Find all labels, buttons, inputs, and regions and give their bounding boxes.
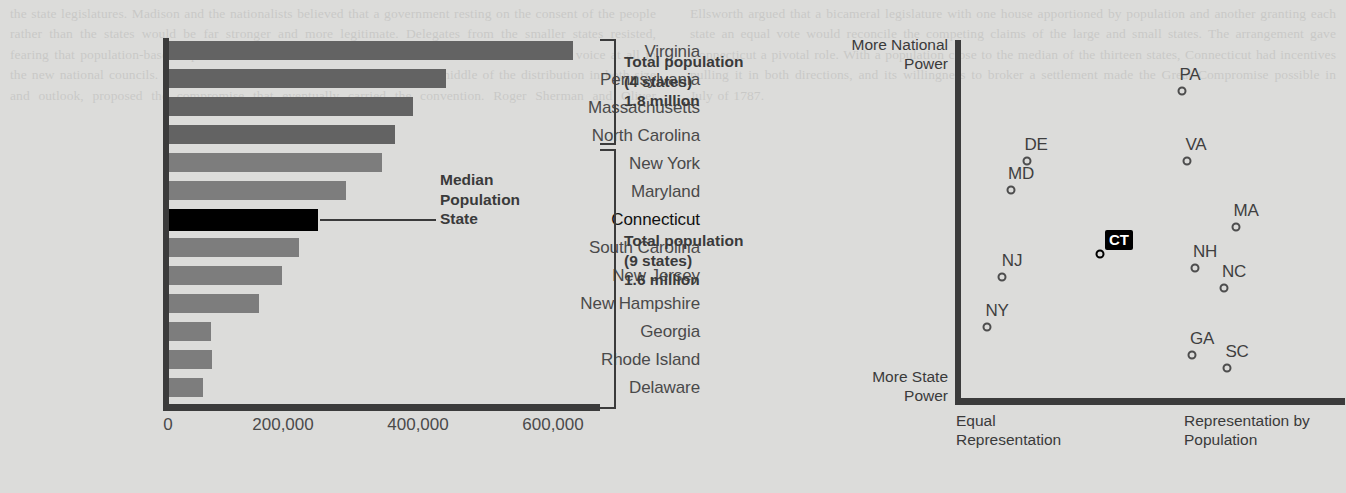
median-callout-line-1: Median [440,170,520,190]
scatter-point-ga[interactable] [1188,351,1197,360]
median-callout-line-3: State [440,209,520,229]
scatter-x-axis [955,398,1345,405]
axis-caption-representation-by-population: Representation by Population [1184,412,1310,449]
scatter-label-sc: SC [1225,342,1248,362]
group-total-top: Total population (4 states) 1.8 million [624,52,743,111]
bar-label-connecticut: Connecticut [550,210,700,230]
bracket-top-group [600,39,616,145]
bar-label-rhode-island: Rhode Island [550,350,700,370]
group-top-line-2: (4 states) [624,72,743,92]
bar-label-north-carolina: North Carolina [550,126,700,146]
bar-south-carolina [168,238,299,257]
bar-chart: Virginia Pennsylvania Massachusetts Nort… [0,0,700,493]
scatter-point-sc[interactable] [1223,364,1232,373]
scatter-point-nj[interactable] [998,273,1007,282]
bar-label-georgia: Georgia [550,322,700,342]
ycap-bottom-line-2: Power [820,387,948,406]
bar-georgia [168,322,211,341]
group-total-bottom: Total population (9 states) 1.6 million [624,231,743,290]
bar-connecticut [168,209,318,231]
group-top-line-3: 1.8 million [624,91,743,111]
bar-label-maryland: Maryland [550,182,700,202]
scatter-point-pa[interactable] [1178,87,1187,96]
scatter-y-axis [955,40,961,404]
group-bottom-line-1: Total population [624,231,743,251]
bar-north-carolina [168,125,395,144]
bar-delaware [168,378,203,397]
ycap-top-line-2: Power [820,55,948,74]
scatter-point-nc[interactable] [1220,284,1229,293]
scatter-label-ga: GA [1190,329,1214,349]
scatter-point-va[interactable] [1183,157,1192,166]
figure-container: Virginia Pennsylvania Massachusetts Nort… [0,0,1346,493]
bar-new-york [168,153,382,172]
scatter-point-nh[interactable] [1191,264,1200,273]
scatter-label-de: DE [1024,135,1047,155]
xcap-left-line-1: Equal [956,412,1061,431]
bar-chart-x-axis [163,404,600,411]
bracket-bottom-group [600,149,616,409]
bar-maryland [168,181,346,200]
bar-label-new-hampshire: New Hampshire [550,294,700,314]
scatter-label-va: VA [1185,135,1206,155]
scatter-label-ny: NY [985,301,1008,321]
scatter-label-nc: NC [1222,262,1246,282]
xcap-left-line-2: Representation [956,431,1061,450]
x-tick-400000: 400,000 [387,415,448,435]
scatter-plot: More National Power More State Power Equ… [820,0,1346,493]
group-bottom-line-3: 1.6 million [624,270,743,290]
axis-caption-more-national-power: More National Power [820,36,948,73]
bar-new-hampshire [168,294,259,313]
scatter-label-ct: CT [1105,230,1133,250]
bar-pennsylvania [168,69,446,88]
scatter-point-ma[interactable] [1232,223,1241,232]
x-tick-600000: 600,000 [522,415,583,435]
bar-chart-y-axis [163,38,169,410]
scatter-label-md: MD [1008,164,1034,184]
group-top-line-1: Total population [624,52,743,72]
bar-massachusetts [168,97,413,116]
x-tick-0: 0 [163,415,172,435]
bar-new-jersey [168,266,282,285]
scatter-label-nh: NH [1193,242,1217,262]
scatter-point-ny[interactable] [983,323,992,332]
bar-label-delaware: Delaware [550,378,700,398]
xcap-right-line-2: Population [1184,431,1310,450]
ycap-top-line-1: More National [820,36,948,55]
scatter-point-ct[interactable] [1096,250,1105,259]
scatter-point-md[interactable] [1007,186,1016,195]
median-leader-line [320,219,436,221]
x-tick-200000: 200,000 [252,415,313,435]
median-callout: Median Population State [440,170,520,229]
scatter-label-ma: MA [1233,201,1258,221]
xcap-right-line-1: Representation by [1184,412,1310,431]
ycap-bottom-line-1: More State [820,368,948,387]
bar-label-new-york: New York [550,154,700,174]
axis-caption-equal-representation: Equal Representation [956,412,1061,449]
bar-virginia [168,41,573,60]
bar-rhode-island [168,350,212,369]
group-bottom-line-2: (9 states) [624,251,743,271]
scatter-label-nj: NJ [1002,251,1022,271]
axis-caption-more-state-power: More State Power [820,368,948,405]
median-callout-line-2: Population [440,190,520,210]
scatter-label-pa: PA [1179,65,1200,85]
